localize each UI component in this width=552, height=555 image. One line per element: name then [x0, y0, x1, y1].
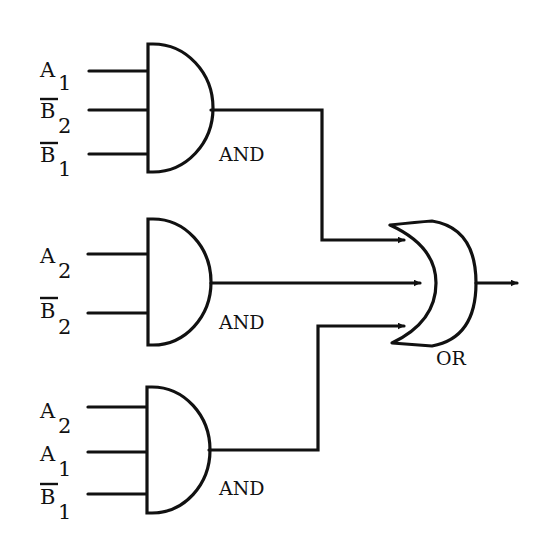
- svg-text:1: 1: [58, 157, 71, 181]
- svg-text:2: 2: [58, 259, 71, 283]
- svg-text:B: B: [40, 299, 55, 323]
- logic-circuit-diagram: A 1 B 2 B 1 AND A 2 B 2 AND A 2 A 1 B 1 …: [0, 0, 552, 555]
- svg-text:2: 2: [58, 114, 71, 138]
- and-gate-1: [89, 44, 213, 172]
- svg-text:A: A: [39, 58, 56, 82]
- input-label-b2-bar-gate2: B 2: [40, 298, 71, 339]
- input-label-a2-gate2: A 2: [39, 244, 71, 283]
- input-label-a1-gate1: A 1: [39, 58, 71, 95]
- and-gate-3: [88, 387, 210, 513]
- input-label-b1-bar-gate1: B 1: [40, 143, 71, 181]
- and-gate-1-label: AND: [218, 143, 265, 165]
- wire-and1-to-or: [211, 110, 404, 240]
- input-label-b2-bar-gate1: B 2: [40, 99, 71, 138]
- and-gate-3-label: AND: [218, 477, 265, 499]
- svg-text:A: A: [39, 442, 56, 466]
- input-label-b1-bar-gate3: B 1: [40, 484, 71, 524]
- or-gate-label: OR: [436, 347, 467, 369]
- and-gate-2: [88, 219, 211, 345]
- wire-and3-to-or: [209, 326, 404, 450]
- svg-text:1: 1: [58, 71, 71, 95]
- and-gate-2-label: AND: [218, 311, 265, 333]
- svg-text:B: B: [40, 485, 55, 509]
- input-label-a2-gate3: A 2: [39, 399, 71, 438]
- input-label-a1-gate3: A 1: [39, 442, 71, 481]
- svg-text:1: 1: [58, 457, 71, 481]
- svg-text:A: A: [39, 399, 56, 423]
- svg-text:2: 2: [58, 414, 71, 438]
- svg-text:1: 1: [58, 500, 71, 524]
- svg-text:2: 2: [58, 315, 71, 339]
- svg-text:B: B: [40, 143, 55, 167]
- and-gate-3-body: [147, 387, 210, 513]
- and-gate-2-body: [148, 219, 211, 345]
- and-gate-1-body: [148, 44, 213, 172]
- svg-text:B: B: [40, 99, 55, 123]
- svg-text:A: A: [39, 244, 56, 268]
